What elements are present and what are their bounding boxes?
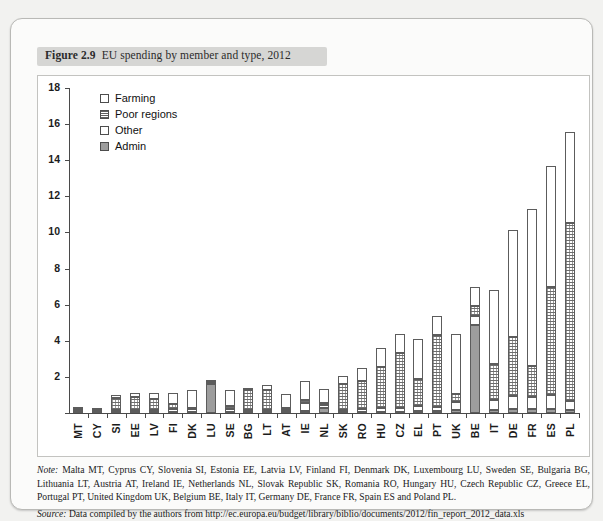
bar-segment-other bbox=[395, 408, 405, 413]
x-axis-label-cz: CZ bbox=[394, 423, 406, 438]
x-axis-tick bbox=[163, 413, 164, 418]
bar-lv bbox=[149, 393, 159, 413]
figure-label: Figure 2.9 bbox=[45, 49, 96, 61]
bar-segment-poor bbox=[92, 410, 102, 412]
x-axis-tick bbox=[258, 413, 259, 418]
bar-el bbox=[413, 339, 423, 413]
bar-segment-farming bbox=[281, 394, 291, 408]
bar-cz bbox=[395, 337, 405, 413]
x-axis-label-ro: RO bbox=[356, 423, 368, 439]
bar-at bbox=[281, 394, 291, 413]
y-axis-label: 2 bbox=[34, 370, 60, 382]
y-axis-label: 18 bbox=[34, 81, 60, 93]
y-axis-label: 8 bbox=[34, 262, 60, 274]
bar-segment-farming bbox=[319, 389, 329, 403]
x-axis-label-ee: EE bbox=[129, 423, 141, 438]
bar-segment-admin bbox=[451, 410, 461, 413]
bar-segment-farming bbox=[565, 132, 575, 222]
legend-label: Admin bbox=[115, 140, 146, 152]
bar-segment-farming bbox=[300, 381, 310, 400]
bar-uk bbox=[451, 334, 461, 413]
bar-segment-farming bbox=[243, 388, 253, 391]
legend-item-farming: Farming bbox=[100, 90, 177, 106]
bar-segment-farming bbox=[225, 390, 235, 405]
bar-sk bbox=[338, 376, 348, 413]
bar-segment-farming bbox=[546, 166, 556, 287]
x-axis-tick bbox=[409, 413, 410, 418]
bar-segment-admin bbox=[470, 325, 480, 413]
x-axis-label-at: AT bbox=[280, 423, 292, 437]
x-axis-label-lv: LV bbox=[148, 423, 160, 436]
bar-segment-farming bbox=[206, 380, 216, 382]
bar-segment-admin bbox=[527, 409, 537, 413]
y-axis-tick bbox=[65, 269, 70, 270]
x-axis-tick bbox=[277, 413, 278, 418]
x-axis-tick bbox=[428, 413, 429, 418]
bar-segment-other bbox=[451, 402, 461, 410]
y-axis-label: 14 bbox=[34, 153, 60, 165]
bar-segment-admin bbox=[546, 409, 556, 413]
x-axis-label-de: DE bbox=[507, 423, 519, 438]
bar-segment-poor bbox=[489, 364, 499, 400]
bar-de bbox=[508, 230, 518, 413]
legend-item-admin: Admin bbox=[100, 138, 177, 154]
y-axis-tick bbox=[65, 305, 70, 306]
bar-fi bbox=[168, 393, 178, 413]
bar-segment-other bbox=[300, 403, 310, 411]
x-axis-label-sk: SK bbox=[337, 423, 349, 438]
bar-segment-poor bbox=[338, 384, 348, 410]
bar-lt bbox=[262, 385, 272, 413]
bar-segment-farming bbox=[395, 334, 405, 354]
bar-segment-admin bbox=[489, 410, 499, 413]
page-title: EU spending by member and type, 2012 bbox=[102, 49, 291, 61]
y-axis-label: 16 bbox=[34, 117, 60, 129]
y-axis-label: 6 bbox=[34, 298, 60, 310]
bar-segment-poor bbox=[168, 404, 178, 409]
y-axis-tick bbox=[65, 196, 70, 197]
legend-label: Farming bbox=[115, 92, 155, 104]
bar-segment-other bbox=[546, 395, 556, 409]
y-axis-label: 4 bbox=[34, 334, 60, 346]
x-axis-label-mt: MT bbox=[72, 423, 84, 439]
source-prefix: Source: bbox=[37, 508, 66, 519]
bar-segment-other bbox=[262, 410, 272, 412]
x-axis-tick bbox=[371, 413, 372, 418]
x-axis-tick bbox=[239, 413, 240, 418]
x-axis-tick bbox=[579, 413, 580, 418]
bar-segment-farming bbox=[338, 376, 348, 384]
bar-segment-poor bbox=[130, 397, 140, 411]
bar-segment-poor bbox=[357, 381, 367, 410]
bar-dk bbox=[187, 390, 197, 413]
x-axis-label-lt: LT bbox=[261, 423, 273, 436]
bar-segment-admin bbox=[565, 410, 575, 413]
y-axis-tick bbox=[65, 160, 70, 161]
bar-segment-farming bbox=[470, 287, 480, 307]
legend-swatch-farming bbox=[100, 94, 109, 103]
x-axis-label-uk: UK bbox=[450, 423, 462, 439]
x-axis-tick bbox=[220, 413, 221, 418]
bar-ee bbox=[130, 393, 140, 413]
bar-pl bbox=[565, 132, 575, 413]
bar-segment-farming bbox=[489, 290, 499, 364]
x-axis-tick bbox=[107, 413, 108, 418]
y-axis-tick bbox=[65, 413, 70, 414]
legend-item-poor: Poor regions bbox=[100, 106, 177, 122]
bar-lu bbox=[206, 381, 216, 413]
x-axis-label-fr: FR bbox=[526, 423, 538, 438]
x-axis-tick bbox=[296, 413, 297, 418]
x-axis-tick bbox=[352, 413, 353, 418]
x-axis-tick bbox=[182, 413, 183, 418]
x-axis-label-si: SI bbox=[110, 423, 122, 434]
bar-segment-other bbox=[413, 406, 423, 411]
x-axis-label-dk: DK bbox=[186, 423, 198, 439]
source-text: Data compiled by the authors from http:/… bbox=[69, 508, 524, 519]
bar-segment-farming bbox=[73, 407, 83, 409]
bar-segment-farming bbox=[130, 393, 140, 397]
bar-segment-farming bbox=[187, 390, 197, 407]
bar-segment-farming bbox=[527, 209, 537, 366]
x-axis-label-cy: CY bbox=[91, 423, 103, 438]
legend-label: Other bbox=[115, 124, 143, 136]
chart-plot-area: FarmingPoor regionsOtherAdmin 2468101214… bbox=[37, 75, 590, 457]
bar-segment-farming bbox=[413, 339, 423, 379]
bar-se bbox=[225, 390, 235, 413]
